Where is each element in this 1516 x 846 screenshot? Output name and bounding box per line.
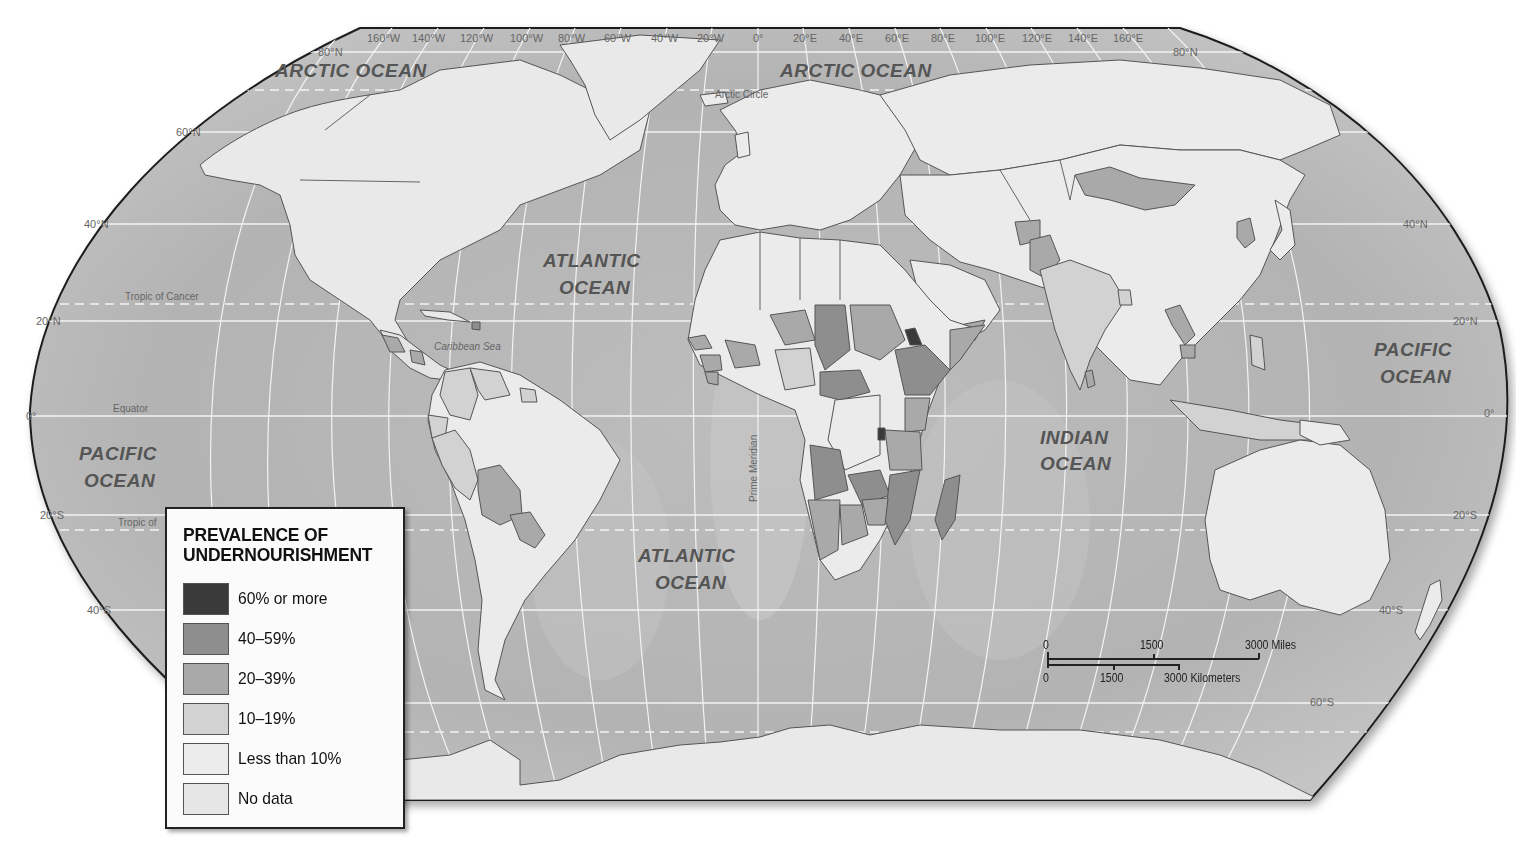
legend-item-10-19: 10–19% — [183, 702, 300, 736]
legend-item-less-than-10: Less than 10% — [183, 742, 350, 776]
arctic-circle-label: Arctic Circle — [715, 89, 769, 100]
pacific-west-label-1: PACIFIC — [79, 443, 157, 464]
pacific-east-label-1: PACIFIC — [1374, 339, 1452, 360]
legend-label: 40–59% — [238, 629, 295, 649]
tropic-of-capricorn-label: Tropic of — [118, 517, 157, 528]
svg-text:40°W: 40°W — [651, 32, 679, 44]
svg-text:60°N: 60°N — [176, 126, 201, 138]
arctic-ocean-west-label: ARCTIC OCEAN — [274, 60, 427, 81]
scale-tick-km-end — [1178, 664, 1180, 670]
country-guyana — [520, 388, 537, 402]
svg-text:100°W: 100°W — [510, 32, 544, 44]
pacific-east-label-2: OCEAN — [1380, 366, 1452, 387]
svg-text:120°E: 120°E — [1022, 32, 1052, 44]
country-bangladesh — [1118, 290, 1132, 305]
country-haiti — [472, 322, 480, 330]
longitude-labels: 160°W 140°W 120°W 100°W 80°W 60°W 40°W 2… — [367, 32, 1143, 44]
scale-tick-km-mid — [1113, 665, 1115, 670]
legend-swatch — [183, 743, 229, 775]
svg-text:20°N: 20°N — [36, 315, 61, 327]
scale-miles-1500: 1500 — [1140, 638, 1163, 652]
svg-text:0°: 0° — [26, 410, 37, 422]
svg-text:80°E: 80°E — [931, 32, 955, 44]
scale-miles-3000: 3000 Miles — [1245, 638, 1296, 652]
svg-text:20°W: 20°W — [697, 32, 725, 44]
scale-miles-0: 0 — [1043, 638, 1049, 652]
svg-text:20°E: 20°E — [793, 32, 817, 44]
svg-text:160°E: 160°E — [1113, 32, 1143, 44]
indian-ocean-label-2: OCEAN — [1040, 453, 1112, 474]
svg-text:40°S: 40°S — [87, 604, 111, 616]
svg-text:60°E: 60°E — [885, 32, 909, 44]
atlantic-south-label-1: ATLANTIC — [637, 545, 736, 566]
legend-swatch — [183, 663, 229, 695]
legend-swatch — [183, 783, 229, 815]
svg-text:140°E: 140°E — [1068, 32, 1098, 44]
legend-label: 20–39% — [238, 669, 295, 689]
svg-text:80°N: 80°N — [1173, 46, 1198, 58]
svg-text:0°: 0° — [753, 32, 764, 44]
legend-label: No data — [238, 789, 293, 809]
legend: PREVALENCE OF UNDERNOURISHMENT 60% or mo… — [165, 507, 405, 829]
legend-title: PREVALENCE OF UNDERNOURISHMENT — [183, 525, 372, 565]
prime-meridian-label: Prime Meridian — [748, 435, 759, 502]
scale-km-1500: 1500 — [1100, 671, 1123, 685]
legend-label: 10–19% — [238, 709, 295, 729]
land-australia — [1205, 440, 1390, 615]
scale-km-3000: 3000 Kilometers — [1164, 671, 1240, 685]
svg-text:40°S: 40°S — [1379, 604, 1403, 616]
legend-swatch — [183, 623, 229, 655]
atlantic-south-label-2: OCEAN — [655, 572, 727, 593]
scale-tick-miles-mid — [1153, 654, 1155, 659]
legend-title-line2: UNDERNOURISHMENT — [183, 545, 372, 565]
land-uk — [735, 132, 750, 158]
svg-text:20°S: 20°S — [1453, 509, 1477, 521]
legend-item-no-data: No data — [183, 782, 298, 816]
svg-text:120°W: 120°W — [460, 32, 494, 44]
svg-text:100°E: 100°E — [975, 32, 1005, 44]
country-tanzania — [885, 430, 922, 470]
atlantic-north-label-1: ATLANTIC — [542, 250, 641, 271]
svg-text:0°: 0° — [1484, 407, 1495, 419]
legend-swatch — [183, 703, 229, 735]
svg-text:40°E: 40°E — [839, 32, 863, 44]
svg-text:40°N: 40°N — [1403, 218, 1428, 230]
svg-text:80°W: 80°W — [558, 32, 586, 44]
country-cambodia — [1180, 345, 1195, 358]
legend-item-40-59: 40–59% — [183, 622, 300, 656]
svg-text:160°W: 160°W — [367, 32, 401, 44]
svg-text:60°S: 60°S — [1310, 696, 1334, 708]
legend-item-60-plus: 60% or more — [183, 582, 335, 616]
svg-text:40°N: 40°N — [84, 218, 109, 230]
legend-title-line1: PREVALENCE OF — [183, 525, 372, 545]
tropic-of-cancer-label: Tropic of Cancer — [125, 291, 199, 302]
scale-tick-miles-end — [1258, 653, 1260, 659]
caribbean-sea-label: Caribbean Sea — [434, 341, 501, 352]
equator-label: Equator — [113, 403, 149, 414]
svg-text:20°S: 20°S — [40, 509, 64, 521]
scale-km-0: 0 — [1043, 671, 1049, 685]
arctic-ocean-east-label: ARCTIC OCEAN — [779, 60, 932, 81]
svg-text:60°W: 60°W — [604, 32, 632, 44]
pacific-west-label-2: OCEAN — [84, 470, 156, 491]
scale-bar: 0 1500 3000 Miles 0 1500 3000 Kilometers — [1040, 636, 1320, 686]
legend-label: Less than 10% — [238, 749, 341, 769]
indian-ocean-label-1: INDIAN — [1040, 427, 1109, 448]
svg-text:140°W: 140°W — [412, 32, 446, 44]
legend-swatch — [183, 583, 229, 615]
svg-text:20°N: 20°N — [1453, 315, 1478, 327]
country-burundi — [878, 428, 885, 440]
atlantic-north-label-2: OCEAN — [559, 277, 631, 298]
svg-text:80°N: 80°N — [318, 46, 343, 58]
legend-item-20-39: 20–39% — [183, 662, 300, 696]
legend-label: 60% or more — [238, 589, 328, 609]
